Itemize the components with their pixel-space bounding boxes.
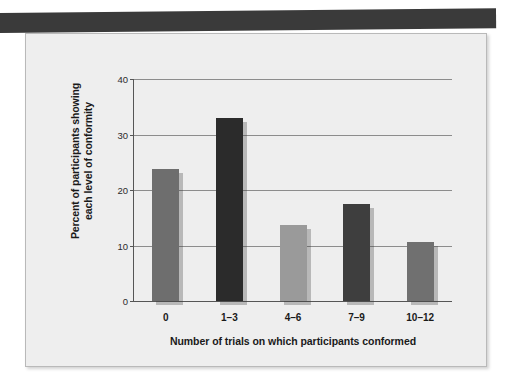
scanned-page: Percent of participants showing each lev… (0, 0, 511, 391)
page-header-band (0, 8, 496, 33)
y-tick-label-30: 30 (117, 129, 128, 140)
y-tick-label-10: 10 (117, 240, 128, 251)
bar-4–6[interactable] (280, 225, 307, 301)
y-tick-mark-10 (130, 246, 134, 247)
y-axis-title-line1: Percent of participants showing (69, 61, 82, 261)
plot-area: 010203040 01–34–67–910–12 Number of tria… (134, 79, 452, 301)
y-tick-label-40: 40 (117, 74, 128, 85)
gridline-40 (134, 79, 452, 80)
x-tick-label-1: 1–3 (199, 312, 259, 323)
x-tick-label-3: 7–9 (327, 312, 387, 323)
y-tick-mark-30 (130, 135, 134, 136)
bar-1–3[interactable] (216, 118, 243, 301)
x-tick-label-2: 4–6 (263, 312, 323, 323)
y-tick-mark-40 (130, 79, 134, 80)
bar-7–9[interactable] (343, 204, 370, 301)
y-axis-title: Percent of participants showing each lev… (69, 61, 95, 261)
bar-0[interactable] (152, 169, 179, 301)
y-tick-mark-0 (130, 301, 134, 302)
y-axis-title-line2: each level of conformity (82, 61, 95, 261)
y-tick-label-0: 0 (123, 296, 128, 307)
y-tick-label-20: 20 (117, 185, 128, 196)
bar-10–12[interactable] (407, 242, 434, 301)
y-tick-mark-20 (130, 190, 134, 191)
x-tick-label-4: 10–12 (390, 312, 450, 323)
gridline-30 (134, 135, 452, 136)
x-tick-label-0: 0 (136, 312, 196, 323)
x-axis-title: Number of trials on which participants c… (134, 335, 452, 347)
figure-panel: Percent of participants showing each lev… (25, 33, 487, 367)
